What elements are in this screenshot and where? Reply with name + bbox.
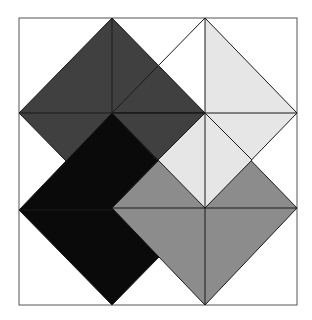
- quilt-diagram: [0, 0, 312, 320]
